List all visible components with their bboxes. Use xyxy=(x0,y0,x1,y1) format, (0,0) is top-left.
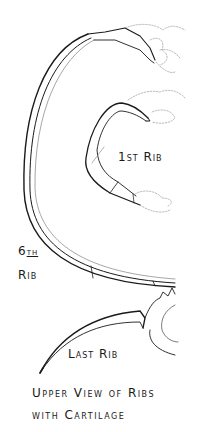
ribs-illustration xyxy=(0,0,199,432)
thoracic-vertebra-sketch xyxy=(125,24,185,72)
sixth-rib-word-label: Rib xyxy=(18,268,37,282)
caption-line-2: with Cartilage xyxy=(32,408,125,422)
first-rib-label: 1st Rib xyxy=(118,150,163,164)
sixth-rib-num: 6 xyxy=(18,244,27,258)
sixth-rib-suffix: th xyxy=(27,246,39,257)
sixth-rib-number-label: 6th xyxy=(18,244,38,258)
caption-line-1: Upper View of Ribs xyxy=(32,386,155,400)
last-rib-label: Last Rib xyxy=(68,347,118,361)
